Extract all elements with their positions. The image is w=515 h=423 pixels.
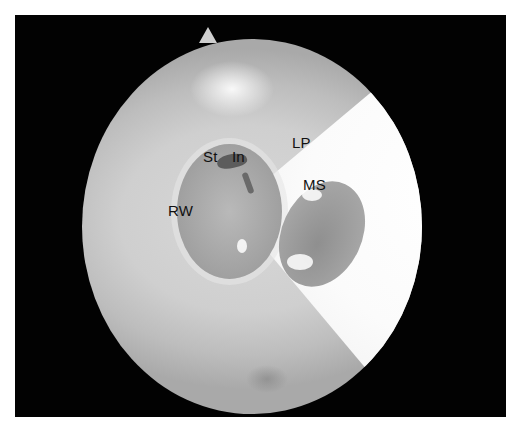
light-reflex — [237, 239, 247, 253]
light-reflex — [287, 254, 313, 270]
label-stapes: St — [203, 149, 218, 164]
endoscope-notch-marker — [199, 27, 217, 43]
label-ms: MS — [303, 177, 326, 192]
endoscopic-field — [82, 39, 422, 414]
label-incus: In — [232, 149, 245, 164]
label-round-window: RW — [168, 203, 193, 218]
image-frame — [15, 15, 506, 417]
label-lenticular-process: LP — [292, 135, 311, 150]
